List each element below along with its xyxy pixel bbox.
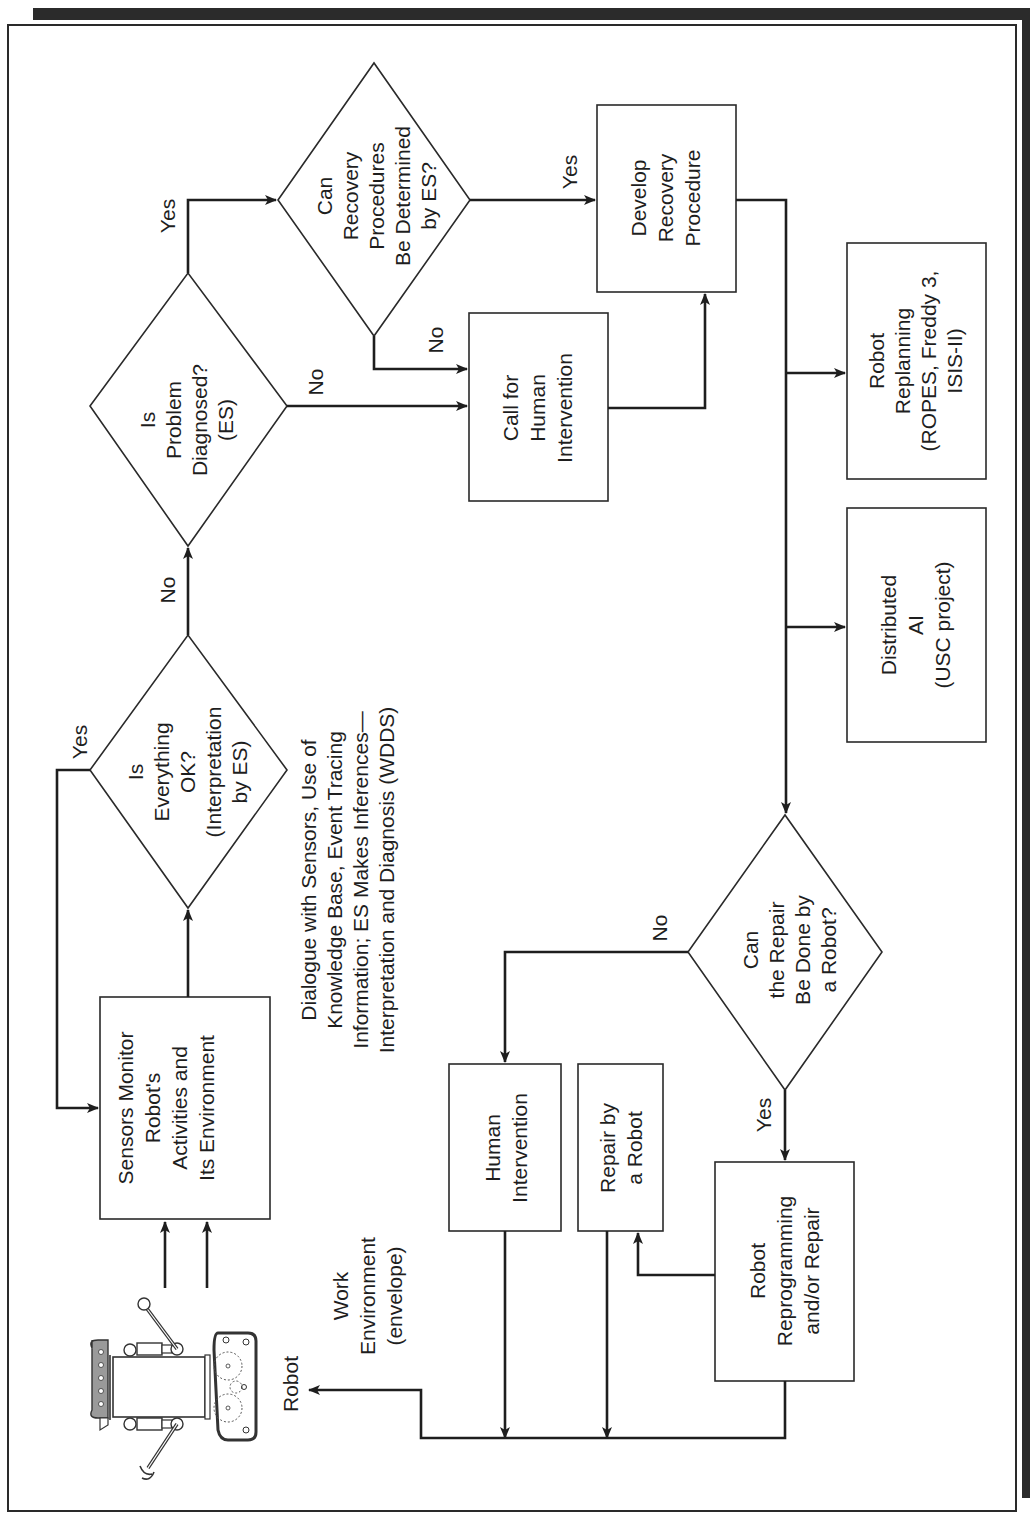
svg-text:No: No	[156, 577, 179, 604]
svg-text:Yes: Yes	[558, 155, 581, 189]
ok-line-1: Is	[124, 764, 147, 780]
diag-line-4: (ES)	[214, 399, 237, 441]
rr-line-3: and/or Repair	[800, 1207, 823, 1334]
dai-line-1: Distributed	[877, 575, 900, 675]
rq-line-3: Be Done by	[791, 895, 814, 1005]
robot-label-text: Robot	[279, 1356, 302, 1412]
dev-line-1: Develop	[627, 159, 650, 236]
dialogue-line-2: Knowledge Base, Event Tracing	[323, 731, 346, 1029]
rec-line-5: by ES?	[417, 162, 440, 230]
rr-line-1: Robot	[746, 1243, 769, 1299]
diag-line-2: Problem	[162, 381, 185, 459]
call-line-2: Human	[526, 374, 549, 442]
flowchart-canvas: Sensors Monitor Robot's Activities and I…	[0, 0, 1030, 1520]
svg-text:Yes: Yes	[752, 1098, 775, 1132]
hi-line-2: Intervention	[508, 1093, 531, 1203]
develop-recovery-text: Develop Recovery Procedure	[627, 150, 704, 247]
label-repair-yes: Yes	[752, 1098, 775, 1132]
rec-line-4: Be Determined	[391, 126, 414, 266]
node-human-intervention[interactable]	[449, 1064, 561, 1231]
ok-line-5: by ES)	[228, 740, 251, 803]
dev-line-3: Procedure	[681, 150, 704, 247]
ok-line-2: Everything	[150, 722, 173, 821]
ok-line-3: OK?	[176, 751, 199, 793]
dai-line-2: AI	[904, 615, 927, 635]
call-line-3: Intervention	[553, 353, 576, 463]
label-diag-yes: Yes	[156, 199, 179, 233]
rq-line-2: the Repair	[765, 902, 788, 999]
rr-line-2: Reprogramming	[773, 1196, 796, 1347]
rq-line-1: Can	[739, 931, 762, 970]
work-environment-annotation: Work Environment (envelope)	[329, 1237, 406, 1355]
dialogue-line-4: Interpretation and Diagnosis (WDDS)	[375, 707, 398, 1054]
dev-line-2: Recovery	[654, 153, 677, 242]
svg-text:Yes: Yes	[68, 725, 91, 759]
replan-line-3: (ROPES, Freddy 3,	[917, 271, 940, 452]
sensors-line-3: Activities and	[168, 1046, 191, 1170]
dai-line-3: (USC project)	[931, 561, 954, 688]
sensors-line-2: Robot's	[141, 1073, 164, 1144]
rec-line-3: Procedures	[365, 142, 388, 249]
label-ok-no: No	[156, 577, 179, 604]
call-line-1: Call for	[499, 375, 522, 442]
svg-text:No: No	[304, 369, 327, 396]
dialogue-line-3: Information; ES Makes Inferences—	[349, 711, 372, 1048]
replan-line-2: Replanning	[891, 308, 914, 414]
node-repair-by-robot[interactable]	[578, 1064, 663, 1231]
svg-text:No: No	[424, 327, 447, 354]
diag-line-3: Diagnosed?	[188, 364, 211, 476]
svg-text:No: No	[648, 915, 671, 942]
replan-line-1: Robot	[865, 333, 888, 389]
sensors-line-4: Its Environment	[195, 1035, 218, 1181]
work-env-line-3: (envelope)	[383, 1246, 406, 1345]
dialogue-line-1: Dialogue with Sensors, Use of	[297, 739, 320, 1020]
label-recovery-no: No	[424, 327, 447, 354]
label-ok-yes: Yes	[68, 725, 91, 759]
replan-line-4: ISIS-II)	[943, 328, 966, 393]
dialogue-annotation: Dialogue with Sensors, Use of Knowledge …	[297, 707, 398, 1054]
rec-line-2: Recovery	[339, 151, 362, 240]
ok-line-4: (Interpretation	[202, 707, 225, 838]
page-right-bar	[1022, 8, 1030, 1498]
robot-illustration-icon	[91, 1298, 256, 1479]
work-env-line-2: Environment	[356, 1237, 379, 1355]
robot-label: Robot	[279, 1356, 302, 1412]
hi-line-1: Human	[481, 1114, 504, 1182]
sensors-line-1: Sensors Monitor	[114, 1032, 137, 1185]
label-diag-no: No	[304, 369, 327, 396]
rec-line-1: Can	[313, 177, 336, 216]
rq-line-4: a Robot?	[817, 907, 840, 992]
diag-line-1: Is	[136, 412, 159, 428]
page-top-bar	[33, 8, 1030, 20]
svg-text:Yes: Yes	[156, 199, 179, 233]
label-recovery-yes: Yes	[558, 155, 581, 189]
label-repair-no: No	[648, 915, 671, 942]
work-env-line-1: Work	[329, 1271, 352, 1320]
rbr-line-2: a Robot	[623, 1111, 646, 1185]
rbr-line-1: Repair by	[596, 1103, 619, 1193]
